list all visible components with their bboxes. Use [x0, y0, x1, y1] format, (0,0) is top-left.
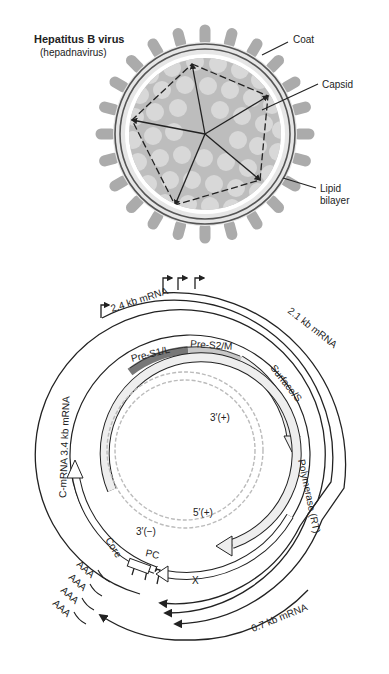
label-mrna-2-1kb: 2.1 kb mRNA — [286, 305, 340, 350]
label-mrna-0-7kb: 0.7 kb mRNA — [250, 601, 310, 634]
virion-illustration: Hepatitus B virus (hepadnavirus) — [34, 30, 353, 238]
capsid-label: Capsid — [322, 79, 353, 90]
hbv-diagram: Hepatitus B virus (hepadnavirus) — [0, 0, 389, 674]
label-mrna-2-4kb: 2.4 kb mRNA — [109, 285, 169, 314]
virion-title: Hepatitus B virus — [34, 33, 124, 45]
label-x: X — [192, 575, 199, 586]
label-mrna-3-4kb: C-mRNA 3.4 kb mRNA — [57, 396, 72, 498]
label-5prime-plus: 5′(+) — [193, 507, 213, 518]
label-polymerase: Polymerase (RT) — [296, 458, 322, 534]
label-3prime-minus: 3′(−) — [136, 526, 156, 537]
lipid-label-2: bilayer — [320, 195, 350, 206]
label-3prime-plus: 3′(+) — [210, 412, 230, 423]
label-pc: PC — [145, 547, 161, 561]
lipid-label-1: Lipid — [320, 183, 341, 194]
coat-label: Coat — [293, 34, 314, 45]
virion-subtitle: (hepadnavirus) — [40, 47, 107, 58]
